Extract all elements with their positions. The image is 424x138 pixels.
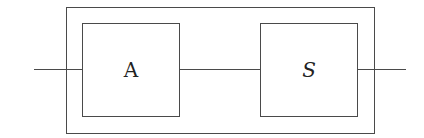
output-line xyxy=(357,69,406,70)
block-s: S xyxy=(260,23,358,117)
input-line xyxy=(34,69,83,70)
block-s-label: S xyxy=(261,58,357,82)
a-to-s-line xyxy=(180,69,260,70)
block-a-label: A xyxy=(83,58,179,82)
block-a: A xyxy=(82,23,180,117)
